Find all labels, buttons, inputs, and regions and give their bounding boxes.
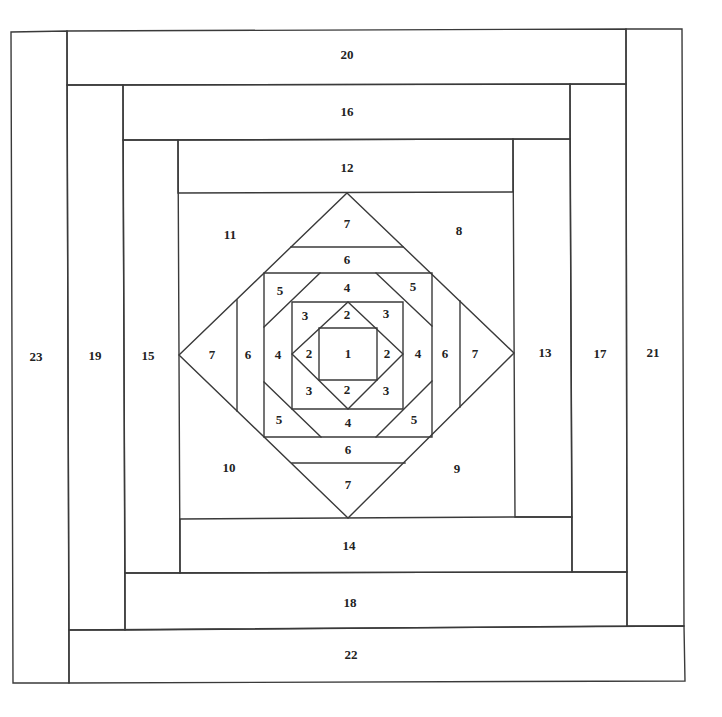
patch-label-10: 10 [223,460,236,475]
patch-label-16: 16 [341,104,355,119]
patch-label-8: 8 [456,223,463,238]
patch-label-11: 11 [224,227,236,242]
patch-label-23: 23 [30,349,44,364]
patch-label-12: 12 [341,160,354,175]
patch-label-22: 22 [345,647,358,662]
patch-label-2: 2 [384,346,391,361]
patch-label-5: 5 [410,279,417,294]
patch-label-7: 7 [472,346,479,361]
patch-label-14: 14 [343,538,357,553]
patch-label-9: 9 [454,461,461,476]
patch-label-20: 20 [341,47,354,62]
patch-label-7: 7 [345,477,352,492]
patch-label-6: 6 [442,346,449,361]
patch-label-4: 4 [275,347,282,362]
patch-label-13: 13 [539,345,553,360]
patch-label-6: 6 [345,442,352,457]
patch-label-3: 3 [383,306,390,321]
patch-label-7: 7 [209,347,216,362]
patch-label-2: 2 [344,307,351,322]
patch-label-6: 6 [344,252,351,267]
patch-label-3: 3 [306,383,313,398]
patch-label-6: 6 [245,347,252,362]
patch-label-7: 7 [344,216,351,231]
patch-label-5: 5 [276,412,283,427]
patch-label-19: 19 [89,348,103,363]
patch-label-5: 5 [411,412,418,427]
patch-label-15: 15 [142,348,156,363]
patch-label-17: 17 [594,346,608,361]
patch-14 [180,517,572,573]
patch-label-1: 1 [345,346,352,361]
patch-label-4: 4 [344,280,351,295]
patch-label-21: 21 [647,345,660,360]
patch-label-18: 18 [344,595,358,610]
patch-label-4: 4 [345,415,352,430]
patch-label-2: 2 [306,346,313,361]
patch-label-4: 4 [415,346,422,361]
patch-18 [125,572,627,630]
patch-13 [513,139,572,517]
patch-22 [69,626,685,683]
patch-label-3: 3 [302,308,309,323]
patch-label-2: 2 [344,382,351,397]
patch-21 [626,29,684,626]
patch-17 [570,84,627,572]
patch-label-3: 3 [383,383,390,398]
patch-label-5: 5 [277,283,284,298]
quilt-block-diagram: 1222233334444555566667777891011121314151… [0,0,722,717]
